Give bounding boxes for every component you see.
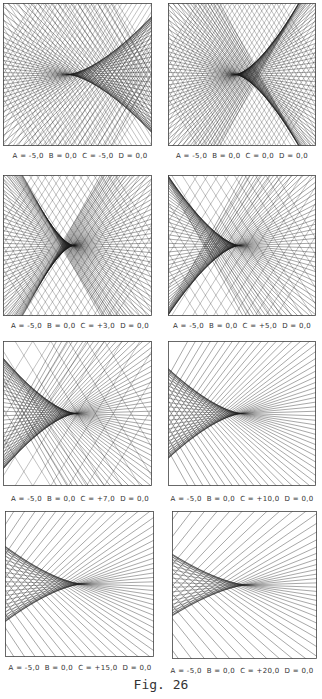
- diagram-panel-4: [168, 175, 316, 316]
- line-envelope-plot: [5, 511, 154, 657]
- diagram-panel-8: [172, 511, 317, 659]
- panel-caption-5: A = -5,0 B = 0,0 C = +7,0 D = 0,0: [0, 495, 160, 503]
- line-envelope-plot: [3, 175, 152, 316]
- diagram-panel-5: [3, 341, 152, 486]
- diagram-panel-2: [168, 3, 316, 146]
- figure-caption: Fig. 26: [0, 677, 322, 692]
- line-envelope-plot: [168, 341, 316, 486]
- panel-caption-2: A = -5,0 B = 0,0 C = 0,0 D = 0,0: [162, 152, 322, 160]
- panel-caption-8: A = -5,0 B = 0,0 C = +20,0 D = 0,0: [162, 667, 322, 675]
- line-envelope-plot: [168, 3, 316, 146]
- diagram-panel-1: [3, 3, 152, 146]
- line-envelope-plot: [168, 175, 316, 316]
- line-envelope-plot: [172, 511, 317, 659]
- line-envelope-plot: [3, 3, 152, 146]
- panel-caption-4: A = -5,0 B = 0,0 C = +5,0 D = 0,0: [162, 322, 322, 330]
- diagram-panel-7: [5, 511, 154, 657]
- diagram-panel-6: [168, 341, 316, 486]
- panel-caption-6: A = -5,0 B = 0,0 C = +10,0 D = 0,0: [162, 495, 322, 503]
- panel-caption-3: A = -5,0 B = 0,0 C = +3,0 D = 0,0: [0, 322, 160, 330]
- panel-caption-7: A = -5,0 B = 0,0 C = +15,0 D = 0,0: [0, 664, 160, 672]
- line-envelope-plot: [3, 341, 152, 486]
- panel-caption-1: A = -5,0 B = 0,0 C = -5,0 D = 0,0: [0, 152, 160, 160]
- diagram-panel-3: [3, 175, 152, 316]
